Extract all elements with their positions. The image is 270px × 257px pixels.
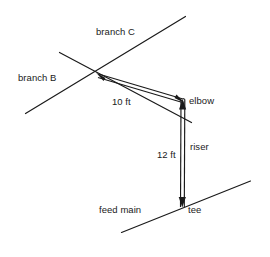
riser-pipe-edge-right xyxy=(184,100,185,208)
elbow-corner-connector xyxy=(183,99,185,100)
riser-label: riser xyxy=(190,141,209,152)
horizontal-dimension-label: 10 ft xyxy=(112,96,131,107)
horizontal-pipe-run xyxy=(96,73,185,104)
vertical-dimension-label: 12 ft xyxy=(157,149,176,160)
branch-b-label: branch B xyxy=(18,72,56,83)
riser-pipe xyxy=(179,99,187,208)
tee-label: tee xyxy=(188,204,201,215)
feed-main-label: feed main xyxy=(99,204,141,215)
branch-b-line xyxy=(60,53,192,123)
horizontal-pipe-edge-bottom xyxy=(98,78,183,103)
branch-c-label: branch C xyxy=(96,26,135,37)
piping-diagram: branch C branch B 10 ft elbow riser 12 f… xyxy=(0,0,270,257)
diagram-canvas xyxy=(0,0,270,257)
riser-pipe-edge-left xyxy=(181,100,182,208)
elbow-label: elbow xyxy=(189,95,214,106)
